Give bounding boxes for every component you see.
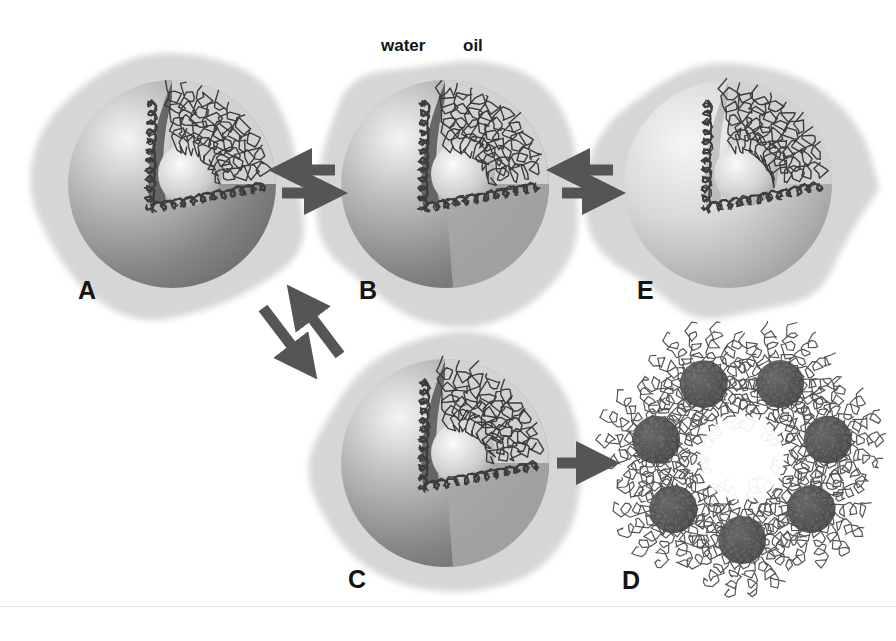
aggregate-core: [718, 516, 766, 564]
arrow-a-to-c: [263, 308, 304, 362]
schematic-svg: [0, 0, 896, 641]
panel-label-b: B: [359, 276, 377, 305]
panel-label-a: A: [78, 276, 96, 305]
label-oil: oil: [463, 36, 483, 56]
aggregate-core: [649, 485, 697, 533]
aggregate-core: [680, 360, 728, 408]
divider: [0, 606, 896, 607]
aggregate-core: [787, 485, 835, 533]
label-water: water: [381, 36, 425, 56]
arrow-c-to-a: [300, 302, 340, 355]
aggregate-core: [632, 416, 680, 464]
aggregate-d: [596, 321, 886, 597]
figure-canvas: water oil A B E C D: [0, 0, 896, 641]
aggregate-core: [756, 360, 804, 408]
droplet-b: [341, 80, 549, 288]
panel-label-e: E: [637, 276, 654, 305]
panel-label-d: D: [622, 566, 640, 595]
droplet-a: [68, 80, 276, 288]
aggregate-core: [804, 416, 852, 464]
panel-label-c: C: [348, 565, 366, 594]
